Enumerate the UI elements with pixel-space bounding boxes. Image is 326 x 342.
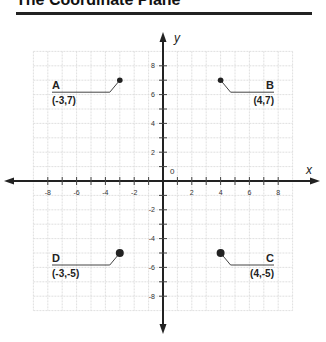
x-tick-label: 2	[190, 189, 194, 196]
arrow-left-icon	[4, 178, 14, 185]
origin-label: 0	[170, 167, 175, 176]
axes: xy0	[4, 31, 320, 334]
y-tick-label: -4	[149, 235, 155, 242]
point-c: C(4,-5)	[217, 249, 274, 279]
x-tick-label: -4	[102, 189, 108, 196]
point-name: D	[52, 252, 60, 264]
coordinate-plane: xy0 -8-6-4-224688642-2-4-6-8 A(-3,7)B(4,…	[0, 0, 326, 342]
y-tick-label: 6	[151, 91, 155, 98]
point-coordinates: (4,-5)	[250, 268, 274, 279]
y-tick-label: 2	[151, 149, 155, 156]
point-marker	[117, 77, 123, 83]
x-tick-label: -6	[73, 189, 79, 196]
point-coordinates: (-3,-5)	[52, 268, 79, 279]
arrow-down-icon	[160, 324, 167, 334]
point-d: D(-3,-5)	[52, 249, 124, 279]
x-tick-label: -2	[131, 189, 137, 196]
y-tick-label: -6	[149, 264, 155, 271]
y-axis-label: y	[173, 31, 181, 45]
point-name: B	[266, 79, 274, 91]
x-tick-label: 8	[276, 189, 280, 196]
y-tick-label: -2	[149, 206, 155, 213]
point-marker	[116, 249, 124, 257]
point-name: C	[266, 252, 274, 264]
x-tick-label: 4	[219, 189, 223, 196]
point-b: B(4,7)	[218, 77, 274, 106]
point-marker	[218, 77, 224, 83]
arrow-up-icon	[160, 32, 167, 42]
point-coordinates: (-3,7)	[52, 95, 76, 106]
point-marker	[217, 249, 225, 257]
x-axis-label: x	[305, 163, 313, 177]
point-coordinates: (4,7)	[253, 95, 274, 106]
y-tick-label: -8	[149, 293, 155, 300]
x-tick-label: 6	[247, 189, 251, 196]
arrow-right-icon	[310, 178, 320, 185]
x-tick-label: -8	[45, 189, 51, 196]
y-tick-label: 8	[151, 62, 155, 69]
point-name: A	[52, 79, 60, 91]
y-tick-label: 4	[151, 120, 155, 127]
